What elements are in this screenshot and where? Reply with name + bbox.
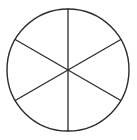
center-point [67,69,69,71]
circle-sector-diagram [0,0,137,140]
